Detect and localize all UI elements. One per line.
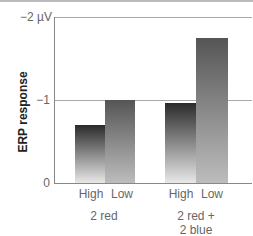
group-label-2red2blue: 2 red + 2 blue	[156, 209, 236, 236]
y-axis-label: ERP response	[16, 67, 30, 157]
group-label-2red: 2 red	[64, 209, 144, 223]
x-axis	[54, 183, 252, 184]
xtick-2red-low: Low	[104, 187, 140, 201]
bar-2red-low	[105, 100, 135, 183]
y-tick-0: 0	[10, 176, 50, 190]
y-tick-minus-2: −2 µV	[10, 10, 52, 24]
top-border	[0, 0, 253, 2]
y-axis	[54, 17, 55, 184]
bar-2red2blue-high	[165, 103, 196, 183]
xtick-2red2blue-low: Low	[194, 187, 230, 201]
bar-2red-high	[75, 125, 105, 183]
group-label-2red2blue-line1: 2 red +	[156, 209, 236, 223]
bar-2red2blue-low	[196, 38, 228, 183]
group-label-2red2blue-line2: 2 blue	[156, 223, 236, 236]
gridline-minus-2	[54, 17, 252, 18]
